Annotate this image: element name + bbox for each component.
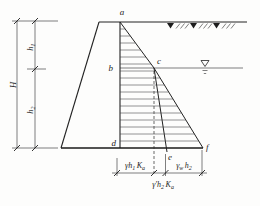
dimension-left: H h1 h2 <box>8 18 58 151</box>
soil-pressure-line <box>154 68 167 152</box>
water-table <box>120 61 243 74</box>
label-point-b: b <box>109 63 114 73</box>
pressure-hatch-lines <box>120 29 199 141</box>
label-dim-H: H <box>8 81 18 89</box>
figure-earth-pressure: H h1 h2 γh1Ka γwh2 γ′h2Ka a b c d e f <box>0 0 260 206</box>
wall-front-face <box>61 22 99 148</box>
label-point-a: a <box>120 7 125 17</box>
water-table-icon <box>201 61 209 74</box>
label-point-f: f <box>206 142 210 152</box>
pressure-diagram <box>120 22 203 173</box>
label-pressure-water: γwh2 <box>176 161 192 171</box>
point-labels: a b c d e f <box>109 7 211 162</box>
label-point-d: d <box>112 138 117 148</box>
label-dim-h1: h1 <box>25 43 36 50</box>
label-point-e: e <box>168 152 172 162</box>
earth-pressure-diagram: H h1 h2 γh1Ka γwh2 γ′h2Ka a b c d e f <box>0 0 260 206</box>
dimension-bottom: γh1Ka γwh2 γ′h2Ka <box>112 150 207 190</box>
ground-hatch-slashes <box>176 24 235 29</box>
label-point-c: c <box>157 56 161 66</box>
label-dim-h2: h2 <box>25 106 36 113</box>
label-pressure-soil-below: γ′h2Ka <box>152 180 174 190</box>
label-pressure-soil-above: γh1Ka <box>125 161 145 171</box>
